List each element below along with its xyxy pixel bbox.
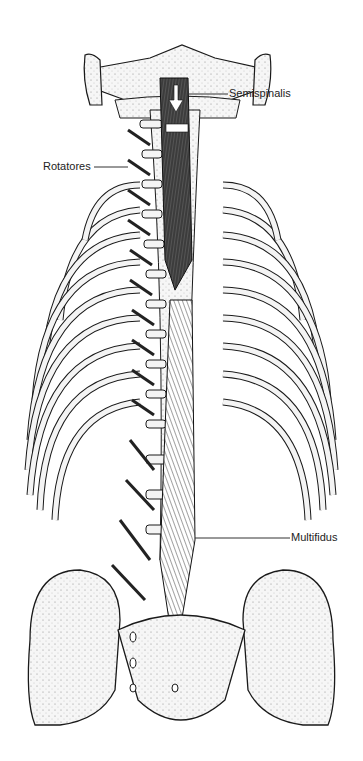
semispinalis-muscle [160,78,192,290]
spine-anatomy-illustration [0,0,363,761]
label-multifidus: Multifidus [291,531,337,543]
label-semispinalis: Semispinalis [229,87,291,99]
label-rotatores: Rotatores [43,160,91,172]
